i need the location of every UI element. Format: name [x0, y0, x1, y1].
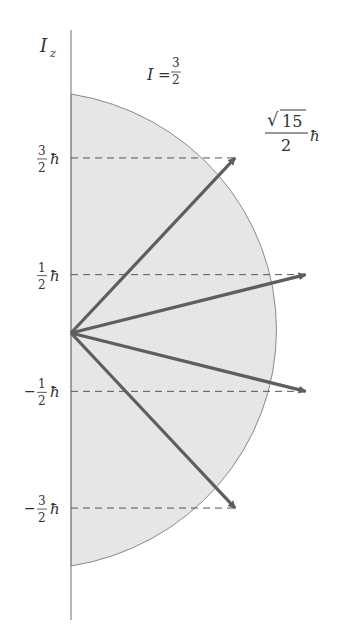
level-denominator: 2: [38, 278, 46, 292]
axis-label: I: [39, 35, 48, 56]
spin-vector-diagram: 32ħ12ħ−12ħ−32ħ I z I = 3 2 √ 15 2 ħ: [0, 0, 338, 644]
level-hbar: ħ: [50, 150, 60, 168]
level-sign: −: [24, 383, 36, 399]
magnitude-hbar: ħ: [310, 127, 320, 145]
level-numerator: 3: [38, 494, 46, 508]
level-numerator: 1: [38, 377, 46, 391]
spin-denominator: 2: [172, 73, 180, 87]
level-denominator: 2: [38, 394, 46, 408]
magnitude-numerator: 15: [282, 112, 302, 131]
level-hbar: ħ: [50, 267, 60, 285]
level-denominator: 2: [38, 161, 46, 175]
level-numerator: 3: [38, 144, 46, 158]
level-hbar: ħ: [50, 383, 60, 401]
level-denominator: 2: [38, 511, 46, 525]
level-sign: −: [24, 500, 36, 516]
sqrt-symbol: √: [267, 109, 279, 130]
half-disk: [71, 94, 276, 566]
magnitude-denominator: 2: [281, 136, 291, 155]
spin-numerator: 3: [172, 56, 180, 70]
spin-label: I: [146, 65, 154, 84]
axis-subscript: z: [49, 47, 56, 60]
level-numerator: 1: [38, 261, 46, 275]
level-hbar: ħ: [50, 500, 60, 518]
spin-equals: =: [158, 66, 171, 84]
